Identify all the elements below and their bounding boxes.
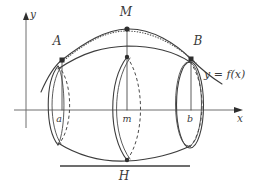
tick-label-b: b (187, 113, 193, 124)
ordinate-group (62, 29, 191, 110)
point-label-B: B (193, 34, 203, 48)
y-axis-arrowhead (23, 12, 29, 20)
point-marker-A (60, 58, 65, 63)
point-marker-M (124, 26, 129, 31)
parabola-approximation-dotted (62, 31, 196, 63)
barrel-body-group (58, 46, 202, 161)
left-disc-rim-arc (58, 66, 64, 145)
height-label-H: H (118, 169, 130, 183)
tick-label-a: a (56, 113, 62, 124)
left-disc-front-arc (48, 66, 58, 145)
x-axis-label: x (237, 112, 243, 124)
y-axis-label: y (29, 8, 37, 20)
point-label-A: A (52, 34, 62, 48)
point-marker-middle-top (125, 55, 129, 59)
left-disc-front-arc-inner (52, 67, 61, 144)
right-disc-ellipse-inner (176, 62, 202, 146)
point-marker-B (189, 57, 194, 62)
middle-disc-hidden-arc (127, 57, 141, 160)
curve-label-y-equals-f-of-x: y = f(x) (203, 68, 245, 81)
barrel-bottom-outline (58, 143, 190, 161)
disc-group (48, 57, 203, 160)
barrel-diagram: y x A M B a m b y = f(x) H (0, 0, 260, 183)
point-marker-middle-bottom (125, 158, 129, 162)
middle-disc-front-arc (113, 57, 127, 160)
barrel-top-outline (58, 46, 190, 69)
figure-root: y x A M B a m b y = f(x) H (0, 0, 260, 183)
point-label-M: M (119, 5, 133, 19)
tick-label-m: m (122, 113, 131, 124)
right-disc-ellipse (177, 62, 204, 148)
